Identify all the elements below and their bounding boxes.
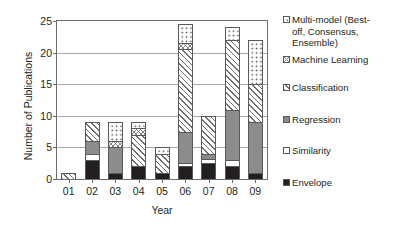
legend-item-classification[interactable]: Classification [283, 82, 395, 94]
legend-label: Regression [292, 114, 395, 126]
bar-segment-02-envelope [85, 160, 100, 179]
bar-year-07[interactable] [201, 116, 216, 179]
y-axis-tickmark-20 [53, 53, 57, 54]
x-axis-tick-04: 04 [133, 185, 145, 197]
x-axis-tick-02: 02 [86, 185, 98, 197]
plot-inner: 0510152025010203040506070809 [57, 21, 267, 179]
bar-segment-02-classification [85, 122, 100, 141]
bar-year-05[interactable] [155, 147, 170, 179]
bar-segment-03-multi-model-best-off-consensus-ensemble [108, 122, 123, 141]
bar-segment-05-multi-model-best-off-consensus-ensemble [155, 147, 170, 153]
y-axis-tickmark-10 [53, 116, 57, 117]
bar-segment-08-envelope [225, 166, 240, 179]
bar-year-09[interactable] [248, 40, 263, 179]
bar-year-04[interactable] [131, 122, 146, 179]
bar-segment-07-classification [201, 116, 216, 154]
bar-segment-02-regression [85, 141, 100, 154]
x-axis-tickmark-08 [232, 179, 233, 183]
bar-segment-04-classification [131, 135, 146, 167]
x-axis-tickmark-04 [139, 179, 140, 183]
legend-item-machine-learning[interactable]: Machine Learning [283, 54, 395, 66]
y-axis-tickmark-5 [53, 147, 57, 148]
x-axis-tick-09: 09 [249, 185, 261, 197]
legend-label: Envelope [292, 177, 395, 189]
bar-year-06[interactable] [178, 24, 193, 179]
legend-item-regression[interactable]: Regression [283, 114, 395, 126]
bar-year-02[interactable] [85, 122, 100, 179]
bar-segment-04-multi-model-best-off-consensus-ensemble [131, 122, 146, 128]
legend-item-envelope[interactable]: Envelope [283, 177, 395, 189]
legend-label: Multi-model (Best- off, Consensus, Ensem… [292, 14, 395, 49]
x-axis-tickmark-05 [162, 179, 163, 183]
bar-segment-06-machine-learning [178, 43, 193, 49]
x-axis-tickmark-06 [185, 179, 186, 183]
bar-segment-03-machine-learning [108, 141, 123, 147]
bar-segment-07-envelope [201, 163, 216, 179]
x-axis-tick-08: 08 [226, 185, 238, 197]
bar-segment-06-regression [178, 132, 193, 164]
bar-segment-03-regression [108, 147, 123, 172]
bar-segment-06-classification [178, 49, 193, 131]
legend-swatch-icon [283, 116, 290, 123]
legend-label: Machine Learning [292, 54, 395, 66]
y-axis-tickmark-15 [53, 84, 57, 85]
bar-segment-02-similarity [85, 154, 100, 160]
bar-segment-08-classification [225, 40, 240, 110]
bar-segment-04-machine-learning [131, 128, 146, 134]
x-axis-tickmark-02 [92, 179, 93, 183]
bar-segment-09-regression [248, 122, 263, 173]
bar-segment-09-classification [248, 84, 263, 122]
bar-segment-07-similarity [201, 159, 216, 163]
plot-area: 0510152025010203040506070809 [56, 20, 268, 180]
bar-segment-04-envelope [131, 166, 146, 179]
x-axis-tickmark-03 [115, 179, 116, 183]
legend-swatch-icon [283, 16, 290, 23]
y-axis-tickmark-25 [53, 21, 57, 22]
bar-year-03[interactable] [108, 122, 123, 179]
legend-label: Similarity [292, 145, 395, 157]
legend-swatch-icon [283, 179, 290, 186]
legend-swatch-icon [283, 56, 290, 63]
bar-segment-06-envelope [178, 166, 193, 179]
x-axis-tickmark-01 [69, 179, 70, 183]
bar-segment-07-regression [201, 154, 216, 159]
x-axis-tick-07: 07 [203, 185, 215, 197]
legend-item-similarity[interactable]: Similarity [283, 145, 395, 157]
y-axis-tickmark-0 [53, 179, 57, 180]
bar-segment-08-regression [225, 110, 240, 161]
legend-swatch-icon [283, 147, 290, 154]
x-axis-tick-06: 06 [179, 185, 191, 197]
bar-segment-06-multi-model-best-off-consensus-ensemble [178, 24, 193, 43]
x-axis-tickmark-07 [209, 179, 210, 183]
bar-segment-08-multi-model-best-off-consensus-ensemble [225, 27, 240, 40]
legend-label: Classification [292, 82, 395, 94]
x-axis-tickmark-09 [255, 179, 256, 183]
bar-year-08[interactable] [225, 27, 240, 179]
legend-item-multi-model-best-off-consensus-ensemble[interactable]: Multi-model (Best- off, Consensus, Ensem… [283, 14, 395, 49]
y-axis-title: Number of Publications [22, 26, 34, 186]
bar-segment-06-similarity [178, 163, 193, 166]
x-axis-tick-03: 03 [109, 185, 121, 197]
x-axis-title: Year [56, 204, 268, 216]
bar-segment-05-classification [155, 154, 170, 173]
bar-segment-09-multi-model-best-off-consensus-ensemble [248, 40, 263, 84]
x-axis-tick-05: 05 [156, 185, 168, 197]
publications-by-year-chart: Number of Publications 05101520250102030… [0, 0, 395, 247]
legend-swatch-icon [283, 84, 290, 91]
bar-segment-08-similarity [225, 160, 240, 166]
x-axis-tick-01: 01 [63, 185, 75, 197]
